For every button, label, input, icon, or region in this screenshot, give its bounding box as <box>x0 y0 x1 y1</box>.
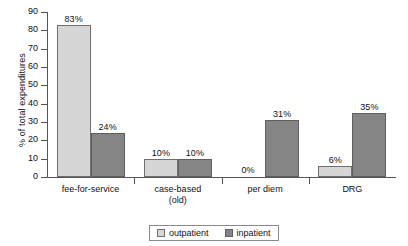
bar-inpatient[interactable]: 35% <box>352 113 386 177</box>
bar-group: 83%24% <box>47 12 134 177</box>
y-axis-tick: 0 <box>41 177 47 178</box>
legend-label-outpatient: outpatient <box>169 228 209 238</box>
bar-outpatient[interactable]: 83% <box>57 25 91 177</box>
y-axis-tick-label: 90 <box>28 6 38 16</box>
y-axis-tick-label: 50 <box>28 79 38 89</box>
legend-swatch-outpatient-icon <box>157 229 165 237</box>
bar-outpatient[interactable]: 6% <box>318 166 352 177</box>
bar-value-label: 10% <box>152 148 170 158</box>
category-label: per diem <box>222 184 309 195</box>
bar-value-label: 83% <box>65 14 83 24</box>
bar-value-label: 6% <box>329 155 342 165</box>
y-axis-title: % of total expenditures <box>17 20 27 180</box>
category-label-line: fee-for-service <box>62 184 120 194</box>
bar-value-label: 35% <box>360 102 378 112</box>
category-label-line: case-based <box>155 184 202 194</box>
category-label-line: (old) <box>134 195 221 206</box>
y-axis-tick-label: 10 <box>28 153 38 163</box>
category-label: DRG <box>309 184 396 195</box>
legend-item-outpatient[interactable]: outpatient <box>157 228 209 238</box>
bar-value-label: 0% <box>242 165 255 175</box>
bar-group: 6%35% <box>309 12 396 177</box>
y-axis-tick-label: 60 <box>28 61 38 71</box>
category-label-line: DRG <box>342 184 362 194</box>
plot-area: 9080706050403020100 83%24%10%10%0%31%6%3… <box>47 12 396 178</box>
bar-group: 0%31% <box>222 12 309 177</box>
bar-value-label: 31% <box>273 109 291 119</box>
y-axis-tick-label: 80 <box>28 24 38 34</box>
category-label: fee-for-service <box>47 184 134 195</box>
y-axis-tick-label: 20 <box>28 134 38 144</box>
bar-chart: % of total expenditures 9080706050403020… <box>0 0 408 246</box>
y-axis-tick-label: 40 <box>28 98 38 108</box>
y-axis-tick-label: 70 <box>28 43 38 53</box>
bar-value-label: 10% <box>186 148 204 158</box>
y-axis-tick-label: 0 <box>33 171 38 181</box>
bar-outpatient[interactable]: 10% <box>144 159 178 177</box>
category-label: case-based(old) <box>134 184 221 206</box>
chart-legend: outpatient inpatient <box>149 225 279 241</box>
y-axis-tick-label: 30 <box>28 116 38 126</box>
bar-inpatient[interactable]: 31% <box>265 120 299 177</box>
bar-value-label: 24% <box>99 122 117 132</box>
bar-group: 10%10% <box>134 12 221 177</box>
legend-label-inpatient: inpatient <box>237 228 271 238</box>
bar-inpatient[interactable]: 24% <box>91 133 125 177</box>
legend-swatch-inpatient-icon <box>225 229 233 237</box>
bar-inpatient[interactable]: 10% <box>178 159 212 177</box>
legend-item-inpatient[interactable]: inpatient <box>225 228 271 238</box>
category-label-line: per diem <box>248 184 283 194</box>
